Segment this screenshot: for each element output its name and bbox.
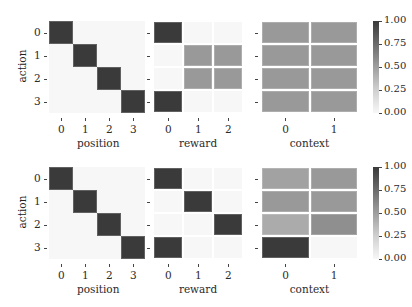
- row-tick-label: 3: [34, 95, 41, 107]
- x-axis-label-context: context: [290, 283, 330, 295]
- row-tick-mark: [255, 225, 258, 226]
- heatmap-cell: [311, 214, 358, 235]
- heatmap-cell: [262, 22, 309, 43]
- heatmap-cell: [214, 168, 242, 189]
- colorbar-tick-label: 0.75: [384, 37, 406, 48]
- col-tick-mark: [228, 264, 229, 267]
- row-tick-mark: [147, 79, 150, 80]
- heatmap-cell: [311, 45, 358, 66]
- row-tick-mark: [44, 202, 47, 203]
- colorbar-tick-mark: [379, 167, 382, 168]
- heatmap-cell: [97, 167, 121, 190]
- heatmap-cell: [73, 90, 97, 113]
- heatmap-cell: [184, 68, 212, 89]
- col-tick-label: 1: [195, 123, 202, 135]
- x-axis-label-reward: reward: [178, 283, 218, 295]
- heatmap-cell: [154, 237, 182, 258]
- heatmap-cell: [311, 191, 358, 212]
- heatmap-cell: [214, 214, 242, 235]
- row-tick-mark: [255, 202, 258, 203]
- colorbar-tick-mark: [379, 259, 382, 260]
- heatmap-cell: [121, 44, 145, 67]
- col-tick-label: 2: [225, 123, 232, 135]
- row-tick-mark: [44, 33, 47, 34]
- row-tick-mark: [255, 79, 258, 80]
- heatmap-cell: [184, 168, 212, 189]
- y-axis-label: action: [16, 50, 28, 83]
- colorbar-tick-mark: [379, 21, 382, 22]
- colorbar-tick-label: 0.50: [384, 60, 406, 71]
- colorbar-tick-mark: [379, 90, 382, 91]
- heatmap-cell: [73, 236, 97, 259]
- row-tick-mark: [44, 102, 47, 103]
- row-tick-mark: [147, 248, 150, 249]
- colorbar-tick-label: 0.50: [384, 206, 406, 217]
- col-tick-label: 1: [331, 269, 338, 281]
- heatmap-cell: [97, 190, 121, 213]
- heatmap-cell: [154, 68, 182, 89]
- heatmap-cell: [262, 168, 309, 189]
- heatmap-cell: [121, 21, 145, 44]
- heatmap-cell: [49, 167, 73, 190]
- x-axis-label-position: position: [77, 283, 117, 295]
- col-tick-label: 0: [165, 269, 172, 281]
- row-tick-mark: [44, 179, 47, 180]
- heatmap-cell: [49, 44, 73, 67]
- heatmap-cell: [262, 91, 309, 112]
- heatmap-cell: [311, 237, 358, 258]
- col-tick-mark: [168, 264, 169, 267]
- y-axis-label: action: [16, 196, 28, 229]
- row-tick-label: 2: [34, 72, 41, 84]
- colorbar-tick-label: 0.75: [384, 183, 406, 194]
- heatmap-cell: [49, 90, 73, 113]
- heatmap-cell: [214, 68, 242, 89]
- row-tick-mark: [44, 56, 47, 57]
- row-tick-mark: [44, 225, 47, 226]
- heatmap-cell: [73, 44, 97, 67]
- heatmap-cell: [121, 167, 145, 190]
- col-tick-label: 1: [82, 123, 89, 135]
- x-axis-label-position: position: [77, 137, 117, 149]
- colorbar-tick-mark: [379, 190, 382, 191]
- row-tick-mark: [147, 179, 150, 180]
- col-tick-mark: [85, 118, 86, 121]
- row-tick-mark: [147, 33, 150, 34]
- col-tick-mark: [334, 264, 335, 267]
- row-tick-mark: [147, 225, 150, 226]
- heatmap-cell: [311, 91, 358, 112]
- heatmap-cell: [73, 167, 97, 190]
- colorbar-tick-label: 0.00: [384, 252, 406, 263]
- heatmap-cell: [73, 67, 97, 90]
- row-tick-mark: [44, 79, 47, 80]
- heatmap-cell: [154, 168, 182, 189]
- heatmap-cell: [214, 45, 242, 66]
- heatmap-cell: [184, 237, 212, 258]
- col-tick-label: 0: [282, 123, 289, 135]
- row-tick-mark: [255, 56, 258, 57]
- col-tick-mark: [109, 118, 110, 121]
- heatmap-cell: [49, 21, 73, 44]
- col-tick-label: 2: [106, 269, 113, 281]
- heatmap-cell: [184, 22, 212, 43]
- row-tick-label: 2: [34, 218, 41, 230]
- heatmap-cell: [97, 236, 121, 259]
- heatmap-cell: [184, 45, 212, 66]
- row-tick-label: 1: [34, 49, 41, 61]
- colorbar-tick-mark: [379, 236, 382, 237]
- heatmap-cell: [154, 22, 182, 43]
- col-tick-label: 3: [130, 269, 137, 281]
- col-tick-label: 0: [58, 269, 65, 281]
- heatmap-cell: [154, 214, 182, 235]
- heatmap-cell: [121, 67, 145, 90]
- col-tick-mark: [85, 264, 86, 267]
- colorbar-tick-label: 0.25: [384, 83, 406, 94]
- heatmap-cell: [214, 91, 242, 112]
- heatmap-cell: [154, 191, 182, 212]
- heatmap-cell: [214, 22, 242, 43]
- heatmap-cell: [262, 191, 309, 212]
- heatmap-cell: [311, 22, 358, 43]
- heatmap-cell: [154, 91, 182, 112]
- heatmap-cell: [262, 68, 309, 89]
- row-tick-label: 3: [34, 241, 41, 253]
- col-tick-mark: [61, 264, 62, 267]
